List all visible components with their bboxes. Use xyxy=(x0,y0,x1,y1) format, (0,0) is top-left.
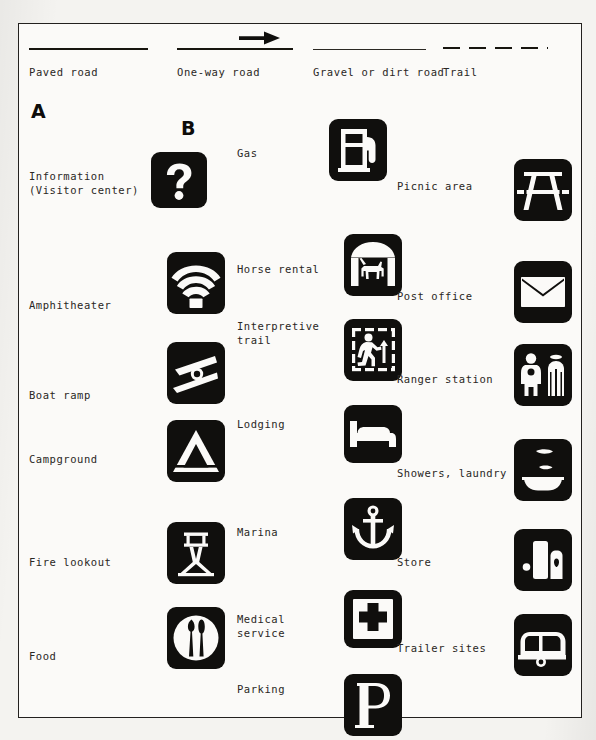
solid-line-thin-icon xyxy=(313,49,426,50)
solid-line-thick-icon xyxy=(29,48,148,50)
ranger-station-icon[interactable] xyxy=(514,344,572,406)
fire-lookout-icon[interactable] xyxy=(167,522,225,584)
post-office-icon[interactable] xyxy=(514,261,572,323)
legend-label-food: Food xyxy=(29,649,159,663)
legend-label-parking: Parking xyxy=(237,682,337,696)
legend-label-campground: Campground xyxy=(29,452,159,466)
campground-icon[interactable] xyxy=(167,420,225,482)
legend-label-post-office: Post office xyxy=(397,289,517,303)
boat-ramp-icon[interactable] xyxy=(167,342,225,404)
information-icon[interactable] xyxy=(151,152,207,208)
marker-b: B xyxy=(181,117,195,139)
legend-label-fire-lookout: Fire lookout xyxy=(29,555,159,569)
legend-label-store: Store xyxy=(397,555,517,569)
legend-label-amphitheater: Amphitheater xyxy=(29,298,159,312)
marina-icon[interactable] xyxy=(344,498,402,560)
lodging-icon[interactable] xyxy=(344,405,402,463)
legend-label-lodging: Lodging xyxy=(237,417,337,431)
showers-laundry-icon[interactable] xyxy=(514,439,572,501)
legend-label-marina: Marina xyxy=(237,525,337,539)
legend-label-picnic-area: Picnic area xyxy=(397,179,517,193)
legend-label-trailer-sites: Trailer sites xyxy=(397,641,517,655)
interpretive-trail-icon[interactable] xyxy=(344,319,402,381)
legend-page: Paved road One-way road Gravel or dirt r… xyxy=(0,0,596,740)
road-label-gravel: Gravel or dirt road xyxy=(313,66,445,78)
road-label-paved: Paved road xyxy=(29,66,98,78)
picnic-area-icon[interactable] xyxy=(514,159,572,221)
trailer-sites-icon[interactable] xyxy=(514,614,572,676)
dashed-line-icon xyxy=(443,47,548,49)
legend-label-boat-ramp: Boat ramp xyxy=(29,388,159,402)
legend-label-interpretive-trail: Interpretive trail xyxy=(237,319,337,347)
one-way-arrow-icon xyxy=(237,30,281,47)
legend-label-medical-service: Medical service xyxy=(237,612,337,640)
legend-frame: Paved road One-way road Gravel or dirt r… xyxy=(18,23,582,718)
solid-line-thick-icon-2 xyxy=(177,48,293,50)
store-icon[interactable] xyxy=(514,529,572,591)
legend-label-gas: Gas xyxy=(237,146,337,160)
food-icon[interactable] xyxy=(167,607,225,669)
parking-icon[interactable] xyxy=(344,674,402,736)
horse-rental-icon[interactable] xyxy=(344,234,402,296)
amphitheater-icon[interactable] xyxy=(167,252,225,314)
marker-a: A xyxy=(31,100,46,122)
road-label-trail: Trail xyxy=(443,66,478,78)
road-label-one-way: One-way road xyxy=(177,66,260,78)
legend-label-horse-rental: Horse rental xyxy=(237,262,337,276)
legend-label-ranger-station: Ranger station xyxy=(397,372,517,386)
legend-label-information: Information (Visitor center) xyxy=(29,169,159,197)
gas-icon[interactable] xyxy=(329,119,387,181)
medical-service-icon[interactable] xyxy=(344,590,402,648)
